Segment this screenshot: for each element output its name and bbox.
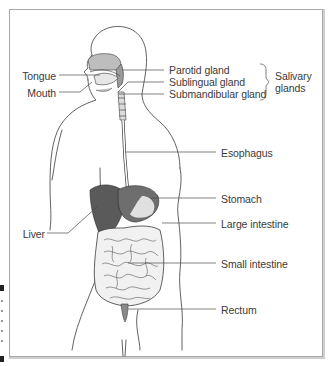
label-submandibular-gland: Submandibular gland <box>169 88 266 100</box>
rectum-shape <box>121 304 128 322</box>
label-salivary-glands-1: Salivary <box>275 70 312 82</box>
left-arm <box>52 130 62 180</box>
head-outline <box>91 26 180 168</box>
label-sublingual-gland: Sublingual gland <box>169 76 245 88</box>
leader-liver <box>47 206 98 233</box>
large-intestine-shape <box>94 226 163 306</box>
left-shoulder <box>50 80 96 230</box>
label-tongue: Tongue <box>10 70 56 82</box>
anatomy-illustration <box>0 0 331 366</box>
leader-sublingual <box>118 82 164 92</box>
label-salivary-glands-2: glands <box>275 82 305 94</box>
label-mouth: Mouth <box>10 87 56 99</box>
label-esophagus: Esophagus <box>221 147 273 159</box>
right-torso <box>178 168 183 350</box>
digestive-system-figure: Tongue Mouth Liver Parotid gland Subling… <box>0 0 331 366</box>
inner-waist <box>137 310 140 350</box>
label-rectum: Rectum <box>221 304 257 316</box>
label-small-intestine: Small intestine <box>221 258 288 270</box>
leader-mouth <box>59 82 92 92</box>
label-stomach: Stomach <box>221 193 262 205</box>
label-liver: Liver <box>10 228 45 240</box>
label-parotid-gland: Parotid gland <box>169 64 230 76</box>
lower-jaw <box>96 88 112 91</box>
nasal-cavity <box>88 54 121 70</box>
label-large-intestine: Large intestine <box>221 218 288 230</box>
legs-split <box>122 340 126 356</box>
